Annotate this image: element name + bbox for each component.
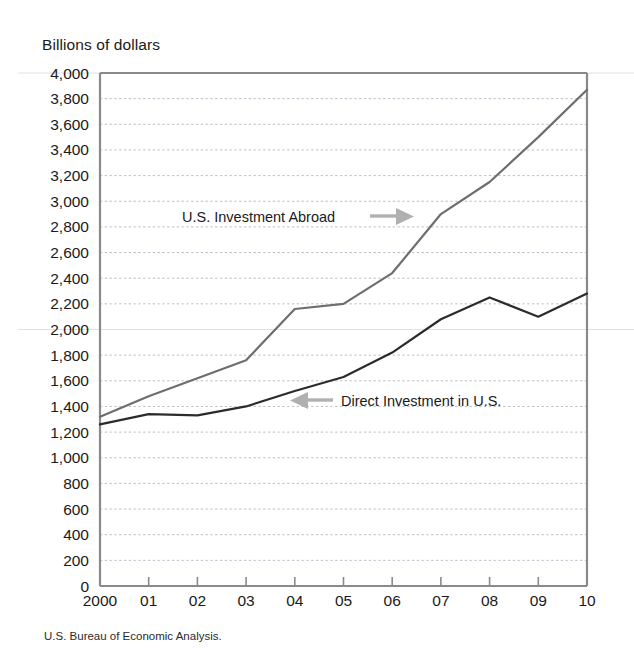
y-tick-label: 2,000 — [50, 321, 89, 338]
y-tick-label: 2,400 — [50, 270, 89, 287]
y-tick-label: 4,000 — [50, 65, 89, 82]
y-tick-label: 3,600 — [50, 116, 89, 133]
arrow-right-icon — [396, 208, 414, 225]
x-tick-label: 04 — [286, 592, 304, 609]
x-tick-label: 02 — [189, 592, 206, 609]
x-tick-label: 09 — [530, 592, 547, 609]
y-tick-label: 400 — [63, 526, 89, 543]
y-axis-ticks: 02004006008001,0001,2001,4001,6001,8002,… — [50, 65, 89, 595]
direct-annotation-label: Direct Investment in U.S. — [341, 393, 501, 409]
y-tick-label: 1,800 — [50, 347, 89, 364]
x-tick-label: 01 — [140, 592, 157, 609]
series-line — [100, 90, 587, 417]
y-tick-label: 2,200 — [50, 295, 89, 312]
source-note: U.S. Bureau of Economic Analysis. — [44, 630, 222, 642]
x-tick-label: 05 — [335, 592, 352, 609]
x-tick-label: 10 — [578, 592, 596, 609]
y-tick-label: 1,000 — [50, 449, 89, 466]
y-tick-label: 800 — [63, 475, 89, 492]
x-tick-label: 03 — [237, 592, 254, 609]
y-tick-label: 1,400 — [50, 398, 89, 415]
chart-figure: Billions of dollars 02004006008001,0001,… — [0, 0, 634, 659]
y-tick-label: 1,200 — [50, 424, 89, 441]
x-tick-label: 08 — [481, 592, 498, 609]
series-annotations: U.S. Investment AbroadDirect Investment … — [182, 208, 501, 409]
y-tick-label: 200 — [63, 552, 89, 569]
x-axis-ticks: 200001020304050607080910 — [83, 577, 596, 609]
x-tick-label: 2000 — [83, 592, 118, 609]
y-tick-label: 3,800 — [50, 90, 89, 107]
y-tick-label: 2,800 — [50, 218, 89, 235]
abroad-annotation-label: U.S. Investment Abroad — [182, 209, 335, 225]
y-tick-label: 1,600 — [50, 372, 89, 389]
y-tick-label: 2,600 — [50, 244, 89, 261]
y-tick-label: 3,000 — [50, 193, 89, 210]
y-tick-label: 600 — [63, 501, 89, 518]
chart-canvas: 02004006008001,0001,2001,4001,6001,8002,… — [0, 0, 634, 659]
data-series — [100, 90, 587, 425]
x-tick-label: 06 — [384, 592, 401, 609]
x-tick-label: 07 — [432, 592, 449, 609]
y-tick-label: 3,200 — [50, 167, 89, 184]
y-tick-label: 3,400 — [50, 141, 89, 158]
